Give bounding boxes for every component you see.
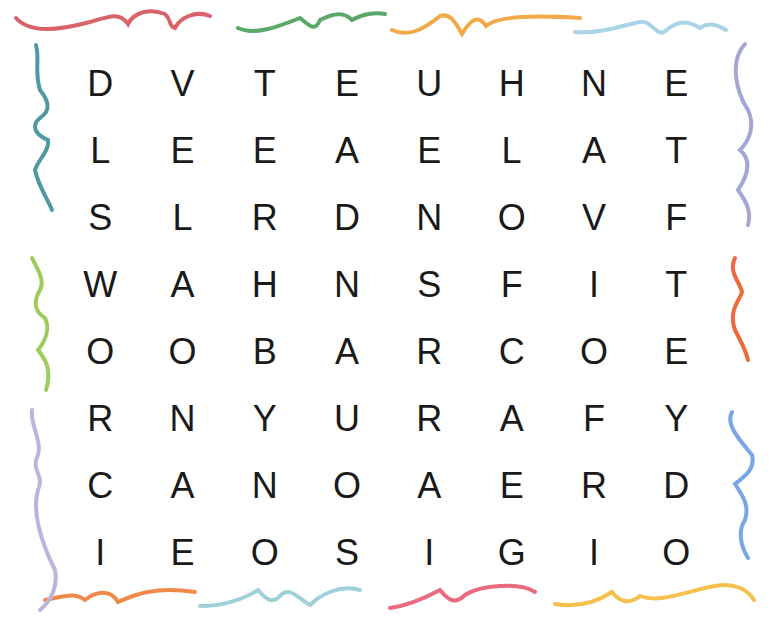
grid-letter-r5-c6[interactable]: C — [470, 318, 552, 385]
grid-letter-r3-c6[interactable]: O — [470, 184, 552, 251]
grid-letter-r1-c5[interactable]: U — [388, 50, 470, 117]
grid-letter-r5-c3[interactable]: B — [224, 318, 306, 385]
grid-letter-r6-c4[interactable]: U — [306, 385, 388, 452]
grid-letter-r8-c2[interactable]: E — [141, 519, 223, 586]
grid-letter-r4-c1[interactable]: W — [59, 251, 141, 318]
grid-letter-r2-c7[interactable]: A — [553, 117, 635, 184]
letter-grid: DVTEUHNELEEAELATSLRDNOVFWAHNSFITOOBARCOE… — [59, 50, 717, 586]
grid-letter-r2-c1[interactable]: L — [59, 117, 141, 184]
grid-letter-r1-c1[interactable]: D — [59, 50, 141, 117]
grid-letter-r3-c8[interactable]: F — [635, 184, 717, 251]
grid-letter-r3-c4[interactable]: D — [306, 184, 388, 251]
grid-letter-r4-c6[interactable]: F — [470, 251, 552, 318]
grid-letter-r7-c2[interactable]: A — [141, 452, 223, 519]
grid-letter-r6-c5[interactable]: R — [388, 385, 470, 452]
grid-letter-r7-c8[interactable]: D — [635, 452, 717, 519]
grid-letter-r4-c7[interactable]: I — [553, 251, 635, 318]
grid-letter-r7-c1[interactable]: C — [59, 452, 141, 519]
grid-letter-r5-c4[interactable]: A — [306, 318, 388, 385]
grid-letter-r5-c1[interactable]: O — [59, 318, 141, 385]
grid-letter-r3-c7[interactable]: V — [553, 184, 635, 251]
grid-letter-r3-c1[interactable]: S — [59, 184, 141, 251]
grid-letter-r6-c7[interactable]: F — [553, 385, 635, 452]
grid-letter-r4-c5[interactable]: S — [388, 251, 470, 318]
grid-letter-r5-c7[interactable]: O — [553, 318, 635, 385]
grid-letter-r6-c8[interactable]: Y — [635, 385, 717, 452]
grid-letter-r1-c7[interactable]: N — [553, 50, 635, 117]
grid-letter-r2-c2[interactable]: E — [141, 117, 223, 184]
grid-letter-r1-c3[interactable]: T — [224, 50, 306, 117]
grid-letter-r4-c8[interactable]: T — [635, 251, 717, 318]
grid-letter-r1-c4[interactable]: E — [306, 50, 388, 117]
grid-letter-r2-c3[interactable]: E — [224, 117, 306, 184]
grid-letter-r2-c4[interactable]: A — [306, 117, 388, 184]
grid-letter-r1-c2[interactable]: V — [141, 50, 223, 117]
grid-letter-r6-c6[interactable]: A — [470, 385, 552, 452]
grid-letter-r4-c2[interactable]: A — [141, 251, 223, 318]
grid-letter-r8-c8[interactable]: O — [635, 519, 717, 586]
grid-letter-r1-c8[interactable]: E — [635, 50, 717, 117]
grid-letter-r2-c8[interactable]: T — [635, 117, 717, 184]
grid-letter-r7-c6[interactable]: E — [470, 452, 552, 519]
grid-letter-r8-c6[interactable]: G — [470, 519, 552, 586]
grid-letter-r6-c1[interactable]: R — [59, 385, 141, 452]
grid-letter-r8-c4[interactable]: S — [306, 519, 388, 586]
grid-letter-r7-c5[interactable]: A — [388, 452, 470, 519]
grid-letter-r7-c3[interactable]: N — [224, 452, 306, 519]
grid-letter-r6-c2[interactable]: N — [141, 385, 223, 452]
grid-letter-r3-c3[interactable]: R — [224, 184, 306, 251]
grid-letter-r2-c5[interactable]: E — [388, 117, 470, 184]
grid-letter-r5-c2[interactable]: O — [141, 318, 223, 385]
grid-letter-r6-c3[interactable]: Y — [224, 385, 306, 452]
grid-letter-r5-c5[interactable]: R — [388, 318, 470, 385]
grid-letter-r7-c7[interactable]: R — [553, 452, 635, 519]
grid-letter-r4-c3[interactable]: H — [224, 251, 306, 318]
grid-letter-r3-c2[interactable]: L — [141, 184, 223, 251]
grid-letter-r1-c6[interactable]: H — [470, 50, 552, 117]
grid-letter-r8-c1[interactable]: I — [59, 519, 141, 586]
grid-letter-r3-c5[interactable]: N — [388, 184, 470, 251]
grid-letter-r8-c5[interactable]: I — [388, 519, 470, 586]
grid-letter-r4-c4[interactable]: N — [306, 251, 388, 318]
grid-letter-r2-c6[interactable]: L — [470, 117, 552, 184]
grid-letter-r7-c4[interactable]: O — [306, 452, 388, 519]
grid-letter-r8-c7[interactable]: I — [553, 519, 635, 586]
grid-letter-r8-c3[interactable]: O — [224, 519, 306, 586]
grid-letter-r5-c8[interactable]: E — [635, 318, 717, 385]
